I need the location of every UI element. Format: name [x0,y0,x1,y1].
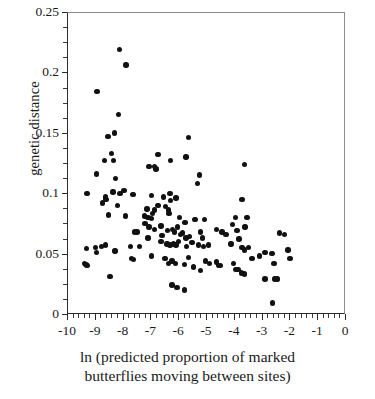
x-axis-minor-tick [184,314,185,318]
data-point [242,162,247,167]
data-point [158,223,163,228]
y-axis-minor-tick [63,118,67,119]
x-axis-tick-label: -1 [312,323,323,339]
y-axis-minor-tick [63,88,67,89]
data-point [242,271,247,276]
x-axis-tick-label: -3 [256,323,267,339]
data-point [106,212,111,217]
data-point [231,261,236,266]
data-point [244,215,249,220]
x-axis-minor-tick [339,314,340,318]
data-point [130,192,135,197]
data-point [94,171,99,176]
data-point [282,232,287,237]
data-point [146,224,151,229]
y-axis-minor-tick [63,223,67,224]
data-point [161,194,166,199]
data-point [112,130,117,135]
x-axis-minor-tick [106,314,107,318]
x-axis-minor-tick [256,314,257,318]
data-point [183,154,188,159]
x-axis-minor-tick [189,314,190,318]
x-axis-minor-tick [117,314,118,318]
data-point [242,224,247,229]
x-axis-minor-tick [278,314,279,318]
data-point [197,172,202,177]
data-point [173,261,178,266]
data-point [159,233,164,238]
x-axis-minor-tick [195,314,196,318]
x-axis-tick [67,314,68,320]
data-point [145,235,150,240]
data-point [223,232,228,237]
x-axis-minor-tick [134,314,135,318]
x-axis-tick [206,314,207,320]
data-point [200,235,205,240]
y-axis-tick-label: 0.1 [42,185,59,201]
x-axis-tick-label: -8 [117,323,128,339]
x-axis-minor-tick [78,314,79,318]
data-point [271,261,276,266]
data-point [262,276,267,281]
y-axis-minor-tick [63,163,67,164]
x-axis-minor-tick [139,314,140,318]
x-axis-minor-tick [312,314,313,318]
data-point [172,229,177,234]
data-point [239,197,244,202]
y-axis-minor-tick [63,299,67,300]
x-axis-minor-tick [173,314,174,318]
x-axis-tick-label: -6 [173,323,184,339]
x-axis-tick [95,314,96,320]
data-point [134,229,139,234]
y-axis-minor-tick [63,239,67,240]
data-point [84,191,89,196]
data-point [206,242,211,247]
x-axis-minor-tick [89,314,90,318]
data-point [262,250,267,255]
x-axis-minor-tick [323,314,324,318]
x-axis-tick-label: -2 [284,323,295,339]
data-point [228,241,233,246]
data-point [137,244,142,249]
data-point [236,236,241,241]
x-axis-tick [289,314,290,320]
x-axis-minor-tick [223,314,224,318]
x-axis-minor-tick [284,314,285,318]
data-point [173,195,178,200]
data-point [287,256,292,261]
x-axis-label: ln (predicted proportion of marked butte… [0,348,375,386]
x-axis-minor-tick [167,314,168,318]
y-axis-minor-tick [63,103,67,104]
x-axis-minor-tick [100,314,101,318]
y-axis-minor-tick [63,178,67,179]
data-point [84,263,89,268]
scatter-plot-figure: genetic distance 00.050.10.150.20.25 -10… [0,0,375,399]
y-axis-tick [62,12,68,13]
y-axis-tick-label: 0.25 [35,4,59,20]
y-axis-tick-label: 0.05 [35,246,59,262]
x-axis-minor-tick [334,314,335,318]
y-axis-minor-tick [63,269,67,270]
data-point [167,191,172,196]
x-axis-tick-label: -10 [58,323,76,339]
data-point [182,220,187,225]
data-point [182,287,187,292]
x-axis-minor-tick [306,314,307,318]
x-axis-minor-tick [111,314,112,318]
x-axis-tick-label: 0 [342,323,349,339]
data-point [100,200,105,205]
data-point [146,164,151,169]
x-axis-tick-label: -9 [89,323,100,339]
data-point [94,250,99,255]
data-point [249,256,254,261]
data-point [153,166,158,171]
data-point [103,242,108,247]
x-axis-tick [317,314,318,320]
x-axis-minor-tick [200,314,201,318]
x-axis-minor-tick [217,314,218,318]
data-point [110,189,115,194]
y-axis-tick [62,254,68,255]
x-axis-tick [150,314,151,320]
y-axis-tick-label: 0 [52,306,59,322]
y-axis-minor-tick [63,27,67,28]
